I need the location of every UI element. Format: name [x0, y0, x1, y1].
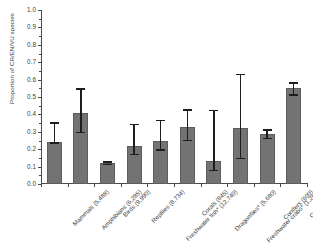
error-cap-upper: [236, 74, 245, 75]
x-tick: [307, 183, 308, 187]
error-bar: [240, 74, 241, 158]
y-tick-label: 0.4: [14, 111, 36, 118]
y-tick: [38, 10, 42, 11]
y-tick-minor: [39, 71, 42, 72]
error-bar: [133, 124, 134, 154]
error-cap-lower: [76, 132, 85, 133]
y-tick-minor: [39, 158, 42, 159]
error-cap-lower: [103, 164, 112, 165]
error-cap-lower: [50, 142, 59, 143]
y-tick: [38, 80, 42, 81]
x-tick: [254, 183, 255, 187]
bar: [100, 163, 115, 184]
error-cap-upper: [103, 161, 112, 162]
y-tick-label: 0.5: [14, 93, 36, 100]
plot-area: 0.00.10.20.30.40.50.60.70.80.91.0: [41, 10, 307, 184]
y-tick: [38, 149, 42, 150]
error-cap-lower: [289, 94, 298, 95]
x-tick: [41, 183, 42, 187]
x-tick: [68, 183, 69, 187]
x-tick-label: Freshwater fish* (12,740): [184, 188, 238, 242]
error-bar: [54, 122, 55, 142]
y-tick-minor: [39, 123, 42, 124]
bar: [47, 142, 62, 184]
error-cap-lower: [236, 158, 245, 159]
x-tick-label: Dragonflies* (5,680): [233, 188, 277, 232]
error-cap-lower: [156, 149, 165, 150]
bar: [286, 88, 301, 184]
y-tick: [38, 132, 42, 133]
y-tick: [38, 167, 42, 168]
x-tick: [121, 183, 122, 187]
error-cap-upper: [50, 122, 59, 123]
error-cap-upper: [130, 124, 139, 125]
y-tick: [38, 114, 42, 115]
error-cap-lower: [130, 154, 139, 155]
x-tick: [201, 183, 202, 187]
y-tick-label: 0.9: [14, 24, 36, 31]
x-tick: [227, 183, 228, 187]
y-tick-minor: [39, 36, 42, 37]
bar-chart: Proportion of CR/EN/VU species 0.00.10.2…: [0, 0, 313, 252]
error-bar: [187, 109, 188, 139]
y-tick: [38, 62, 42, 63]
y-tick-label: 0.1: [14, 163, 36, 170]
error-cap-upper: [156, 120, 165, 121]
x-tick: [174, 183, 175, 187]
y-tick-label: 0.3: [14, 128, 36, 135]
y-tick-label: 0.8: [14, 41, 36, 48]
y-tick: [38, 27, 42, 28]
x-tick: [280, 183, 281, 187]
y-tick-minor: [39, 141, 42, 142]
error-cap-lower: [263, 138, 272, 139]
error-cap-upper: [209, 110, 218, 111]
error-bar: [160, 120, 161, 150]
y-tick-label: 0.0: [14, 180, 36, 187]
y-tick-minor: [39, 106, 42, 107]
error-cap-lower: [209, 170, 218, 171]
bar: [260, 134, 275, 184]
error-cap-upper: [263, 129, 272, 130]
y-tick: [38, 97, 42, 98]
error-bar: [293, 82, 294, 94]
error-bar: [213, 110, 214, 170]
y-tick-label: 0.2: [14, 146, 36, 153]
error-cap-upper: [183, 109, 192, 110]
y-tick-minor: [39, 175, 42, 176]
y-tick-label: 1.0: [14, 6, 36, 13]
y-tick: [38, 45, 42, 46]
y-tick-label: 0.6: [14, 76, 36, 83]
y-tick-minor: [39, 88, 42, 89]
x-tick: [147, 183, 148, 187]
error-cap-upper: [289, 82, 298, 83]
x-tick-label: Reptiles (8,734): [150, 188, 186, 224]
y-tick-minor: [39, 54, 42, 55]
x-tick: [94, 183, 95, 187]
error-cap-upper: [76, 88, 85, 89]
error-cap-lower: [183, 140, 192, 141]
error-bar: [80, 88, 81, 132]
y-tick-label: 0.7: [14, 59, 36, 66]
y-tick-minor: [39, 19, 42, 20]
